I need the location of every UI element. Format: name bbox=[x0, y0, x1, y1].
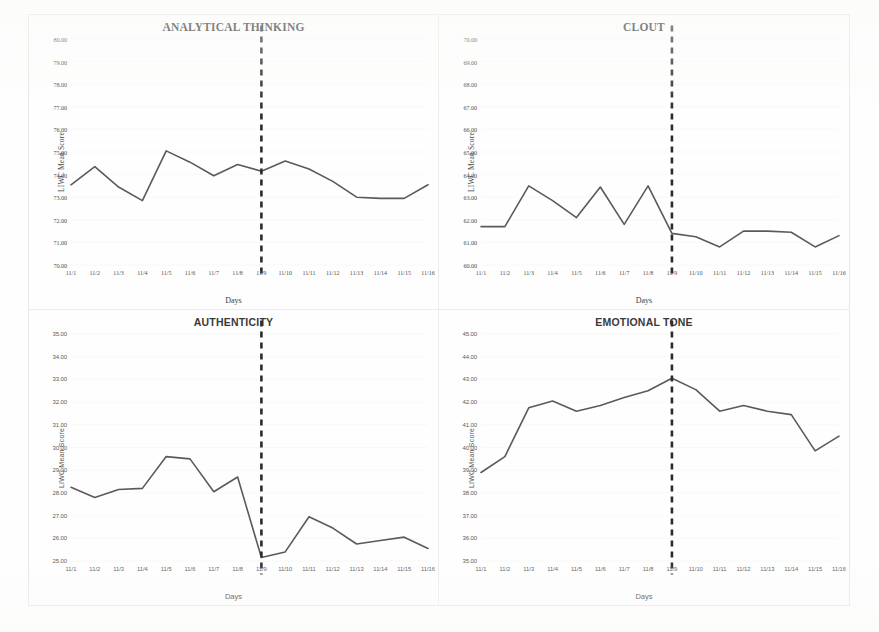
x-axis-tick-label: 11/3 bbox=[113, 566, 124, 572]
x-axis-tick-label: 11/12 bbox=[326, 270, 339, 276]
x-axis-tick-label: 11/6 bbox=[185, 566, 196, 572]
y-axis-tick-label: 43.00 bbox=[462, 376, 477, 382]
y-axis-tick-label: 61.00 bbox=[464, 239, 477, 246]
x-axis-tick-label: 11/4 bbox=[137, 566, 148, 572]
y-axis-tick-label: 70.00 bbox=[464, 36, 477, 43]
x-axis-tick-label: 11/8 bbox=[232, 270, 242, 276]
x-axis-tick-label: 11/2 bbox=[89, 566, 100, 572]
x-axis-tick-label: 11/5 bbox=[571, 566, 582, 572]
x-axis-tick-label: 11/3 bbox=[523, 270, 533, 276]
figure-page: ANALYTICAL THINKING LIWC Mean Score 80.0… bbox=[0, 0, 879, 632]
y-axis-tick-label: 28.00 bbox=[52, 490, 67, 496]
x-axis-tick-label: 11/9 bbox=[667, 270, 677, 276]
x-axis-tick-label: 11/11 bbox=[302, 566, 316, 572]
x-axis-tick-label: 11/13 bbox=[350, 566, 364, 572]
x-axis-tick-label: 11/7 bbox=[208, 566, 219, 572]
y-axis-tick-label: 74.00 bbox=[54, 171, 67, 178]
x-axis-tick-label: 11/16 bbox=[421, 566, 435, 572]
y-axis-tick-label: 35.00 bbox=[462, 558, 477, 564]
x-axis-tick-label: 11/4 bbox=[137, 270, 147, 276]
y-axis-tick-label: 34.00 bbox=[52, 354, 67, 360]
y-axis-tick-label: 26.00 bbox=[52, 535, 67, 541]
x-axis-tick-label: 11/15 bbox=[808, 270, 821, 276]
y-axis-tick-label: 25.00 bbox=[52, 558, 67, 564]
plot-area: 35.0034.0033.0032.0031.0030.0029.0028.00… bbox=[71, 334, 428, 561]
chart-svg bbox=[481, 334, 839, 561]
y-axis-tick-label: 78.00 bbox=[54, 81, 67, 88]
y-axis-title: LIWC Mean Score bbox=[58, 427, 65, 487]
y-axis-tick-label: 68.00 bbox=[464, 81, 477, 88]
x-axis-tick-label: 11/1 bbox=[66, 270, 76, 276]
y-axis-tick-label: 66.00 bbox=[464, 126, 477, 133]
y-axis-tick-label: 30.00 bbox=[52, 445, 67, 451]
x-axis-tick-label: 11/15 bbox=[808, 566, 822, 572]
x-axis-tick-label: 11/10 bbox=[278, 566, 292, 572]
y-axis-tick-label: 29.00 bbox=[52, 467, 67, 473]
y-axis-tick-label: 73.00 bbox=[54, 194, 67, 201]
x-axis-tick-label: 11/15 bbox=[397, 270, 410, 276]
y-axis-tick-label: 36.00 bbox=[462, 535, 477, 541]
y-axis-tick-label: 39.00 bbox=[462, 467, 477, 473]
x-axis-title: Days bbox=[29, 592, 438, 601]
x-axis-title: Days bbox=[439, 592, 849, 601]
x-axis-tick-label: 11/9 bbox=[256, 270, 266, 276]
y-axis-title: LIWC Mean Score bbox=[467, 132, 476, 192]
x-axis-tick-label: 11/16 bbox=[832, 566, 846, 572]
x-axis-tick-label: 11/10 bbox=[689, 270, 702, 276]
y-axis-title: LIWC Mean Score bbox=[468, 427, 475, 487]
y-axis-tick-label: 65.00 bbox=[464, 149, 477, 156]
x-axis-tick-label: 11/7 bbox=[619, 566, 630, 572]
x-axis-tick-label: 11/12 bbox=[736, 566, 750, 572]
chart-title: EMOTIONAL TONE bbox=[439, 316, 849, 328]
y-axis-tick-label: 45.00 bbox=[462, 331, 477, 337]
plot-area: 45.0044.0043.0042.0041.0040.0039.0038.00… bbox=[481, 334, 839, 561]
x-axis-tick-label: 11/13 bbox=[761, 270, 774, 276]
y-axis-tick-label: 77.00 bbox=[54, 103, 67, 110]
x-axis-tick-label: 11/3 bbox=[523, 566, 534, 572]
x-axis-tick-label: 11/13 bbox=[760, 566, 774, 572]
y-axis-title: LIWC Mean Score bbox=[57, 132, 66, 192]
y-axis-tick-label: 71.00 bbox=[54, 239, 67, 246]
x-axis-tick-label: 11/14 bbox=[785, 270, 798, 276]
x-axis-tick-label: 11/11 bbox=[713, 270, 726, 276]
x-axis-tick-label: 11/5 bbox=[571, 270, 581, 276]
y-axis-tick-label: 38.00 bbox=[462, 490, 477, 496]
x-axis-tick-label: 11/6 bbox=[595, 566, 606, 572]
chart-svg bbox=[71, 334, 428, 561]
plot-area: 70.0069.0068.0067.0066.0065.0064.0063.00… bbox=[481, 39, 839, 265]
data-series-line bbox=[71, 457, 428, 558]
y-axis-tick-label: 35.00 bbox=[52, 331, 67, 337]
y-axis-tick-label: 67.00 bbox=[464, 103, 477, 110]
y-axis-tick-label: 72.00 bbox=[54, 216, 67, 223]
x-axis-tick-label: 11/16 bbox=[832, 270, 845, 276]
x-axis-title: Days bbox=[29, 296, 438, 305]
chart-title: CLOUT bbox=[439, 21, 849, 33]
y-axis-tick-label: 32.00 bbox=[52, 399, 67, 405]
x-axis-tick-label: 11/12 bbox=[326, 566, 340, 572]
y-axis-tick-label: 80.00 bbox=[54, 36, 67, 43]
x-axis-tick-label: 11/6 bbox=[595, 270, 605, 276]
y-axis-tick-label: 60.00 bbox=[464, 262, 477, 269]
y-axis-tick-label: 37.00 bbox=[462, 513, 477, 519]
chart-panel-authenticity: AUTHENTICITY LIWC Mean Score 35.0034.003… bbox=[28, 310, 439, 606]
chart-title: ANALYTICAL THINKING bbox=[29, 21, 438, 33]
chart-panel-emotional-tone: EMOTIONAL TONE LIWC Mean Score 45.0044.0… bbox=[439, 310, 850, 606]
x-axis-tick-label: 11/2 bbox=[90, 270, 100, 276]
data-series-line bbox=[71, 151, 428, 201]
y-axis-tick-label: 70.00 bbox=[54, 262, 67, 269]
x-axis-tick-label: 11/3 bbox=[113, 270, 123, 276]
y-axis-tick-label: 42.00 bbox=[462, 399, 477, 405]
y-axis-tick-label: 41.00 bbox=[462, 422, 477, 428]
y-axis-tick-label: 31.00 bbox=[52, 422, 67, 428]
chart-svg bbox=[71, 39, 428, 265]
x-axis-tick-label: 11/15 bbox=[397, 566, 411, 572]
x-axis-tick-label: 11/2 bbox=[499, 566, 510, 572]
y-axis-tick-label: 76.00 bbox=[54, 126, 67, 133]
x-axis-tick-label: 11/1 bbox=[476, 566, 487, 572]
chart-title: AUTHENTICITY bbox=[29, 316, 438, 328]
x-axis-tick-label: 11/4 bbox=[547, 270, 557, 276]
y-axis-tick-label: 33.00 bbox=[52, 376, 67, 382]
x-axis-tick-label: 11/1 bbox=[66, 566, 77, 572]
x-axis-tick-label: 11/8 bbox=[643, 270, 653, 276]
plot-area: 80.0079.0078.0077.0076.0075.0074.0073.00… bbox=[71, 39, 428, 265]
